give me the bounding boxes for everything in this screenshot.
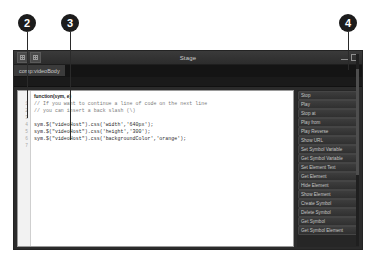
snippet-button-get-element[interactable]: Get Element: [298, 172, 358, 181]
snippets-scrollbar-thumb[interactable]: [356, 90, 359, 175]
callout-badge-4: 4: [339, 14, 357, 32]
snippet-button-set-symbol-variable[interactable]: Set Symbol Variable: [298, 145, 358, 154]
snippet-button-stop-at[interactable]: Stop at: [298, 109, 358, 118]
snippets-scrollbar[interactable]: [356, 90, 359, 246]
snippet-button-get-symbol-variable[interactable]: Get Symbol Variable: [298, 154, 358, 163]
snippet-button-hide-element[interactable]: Hide Element: [298, 181, 358, 190]
snippet-button-show-element[interactable]: Show Element: [298, 190, 358, 199]
snippet-button-delete-symbol[interactable]: Delete Symbol: [298, 208, 358, 217]
code-editor[interactable]: 1234567 function(sym, e) // If you want …: [17, 90, 294, 247]
snippet-button-set-element-text[interactable]: Set Element Text: [298, 163, 358, 172]
callout-leader-line-2: [27, 32, 28, 118]
snippet-button-get-symbol[interactable]: Get Symbol: [298, 217, 358, 226]
line-number: 5: [18, 128, 30, 135]
tab-strip-filler: [66, 65, 362, 76]
callout-badge-2: 2: [18, 14, 36, 32]
line-number: 7: [18, 142, 30, 149]
snippet-button-create-symbol[interactable]: Create Symbol: [298, 199, 358, 208]
callout-4: 4: [339, 14, 357, 70]
line-number: 4: [18, 121, 30, 128]
callout-badge-3: 3: [61, 14, 79, 32]
snippet-button-play-reverse[interactable]: Play Reverse: [298, 127, 358, 136]
snippet-button-stop[interactable]: Stop: [298, 91, 358, 100]
code-line: [34, 142, 293, 149]
snippet-button-show-url[interactable]: Show URL: [298, 136, 358, 145]
snippet-button-play[interactable]: Play: [298, 100, 358, 109]
callout-3: 3: [61, 14, 79, 140]
callout-leader-line-3: [70, 32, 71, 140]
snippet-button-play-from[interactable]: Play from: [298, 118, 358, 127]
snippet-button-get-symbol-element[interactable]: Get Symbol Element: [298, 226, 358, 235]
callout-leader-line-4: [348, 32, 349, 70]
line-number: 6: [18, 135, 30, 142]
code-snippets-panel: StopPlayStop atPlay fromPlay ReverseShow…: [297, 90, 359, 247]
callout-2: 2: [18, 14, 36, 118]
snippet-button-list: StopPlayStop atPlay fromPlay ReverseShow…: [298, 91, 358, 235]
